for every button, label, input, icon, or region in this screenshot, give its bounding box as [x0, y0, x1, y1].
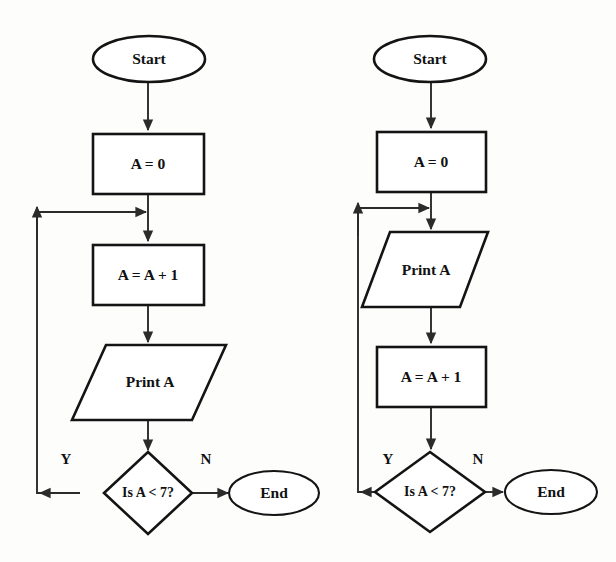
right-flowchart: Start A = 0 Print A A = A + 1 Is A < 7? … [358, 36, 597, 532]
left-branch-label-no: N [201, 451, 212, 467]
left-node-end-label: End [260, 484, 288, 501]
left-branch-label-yes: Y [61, 451, 72, 467]
right-node-end-label: End [537, 483, 565, 500]
flowchart-svg: Start A = 0 A = A + 1 Print A Is A < 7? … [0, 0, 616, 562]
left-node-decision-label: Is A < 7? [122, 485, 174, 500]
right-edge-loop-rail [358, 208, 375, 492]
left-node-increment-label: A = A + 1 [118, 266, 179, 283]
right-node-decision-label: Is A < 7? [404, 484, 456, 499]
left-edge-loop-rail [37, 212, 80, 493]
left-node-print-label: Print A [126, 373, 175, 390]
left-node-start-label: Start [132, 50, 166, 67]
flowchart-canvas: Start A = 0 A = A + 1 Print A Is A < 7? … [0, 0, 616, 562]
left-node-init-label: A = 0 [131, 155, 166, 172]
right-node-increment-label: A = A + 1 [401, 368, 462, 385]
right-branch-label-yes: Y [383, 451, 394, 467]
right-node-start-label: Start [413, 50, 447, 67]
left-flowchart: Start A = 0 A = A + 1 Print A Is A < 7? … [37, 36, 319, 534]
right-branch-label-no: N [473, 451, 484, 467]
right-node-init-label: A = 0 [414, 153, 449, 170]
right-node-print-label: Print A [402, 261, 451, 278]
